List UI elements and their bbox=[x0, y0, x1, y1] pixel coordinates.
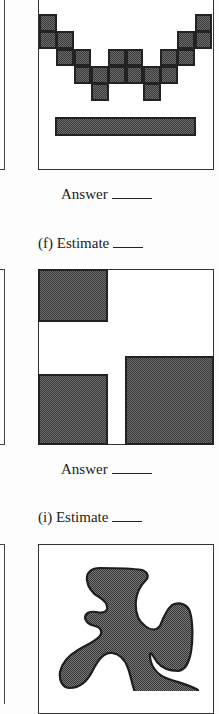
irregular-blob-shape bbox=[0, 0, 219, 691]
